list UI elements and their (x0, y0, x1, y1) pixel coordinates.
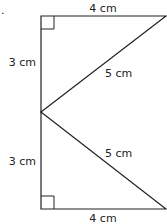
bottom-right-angle-marker (41, 196, 54, 209)
top-right-angle-marker (41, 16, 54, 29)
bottom-triangle-bottom-side-label: 4 cm (89, 212, 116, 224)
top-triangle-top-side-label: 4 cm (89, 2, 116, 15)
top-triangle-left-side-label: 3 cm (9, 56, 36, 69)
triangles-diagram: . 4 cm 3 cm 5 cm 4 cm 3 cm 5 cm (0, 0, 167, 224)
bottom-triangle: 4 cm 3 cm 5 cm (9, 112, 166, 224)
bottom-triangle-hypotenuse-label: 5 cm (105, 147, 132, 160)
top-triangle-shape (41, 16, 166, 112)
top-triangle-hypotenuse-label: 5 cm (105, 67, 132, 80)
bottom-triangle-shape (41, 112, 166, 209)
bottom-triangle-left-side-label: 3 cm (9, 155, 36, 168)
bullet-mark: . (1, 4, 5, 17)
top-triangle: 4 cm 3 cm 5 cm (9, 2, 166, 112)
